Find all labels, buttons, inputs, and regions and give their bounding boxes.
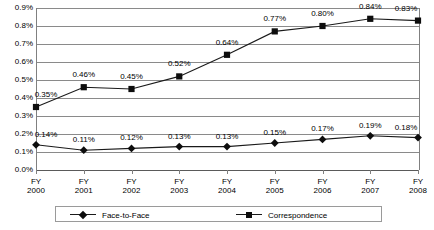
gridline <box>37 170 419 171</box>
x-axis-tick-label-line: FY <box>170 177 188 186</box>
data-label: 0.12% <box>120 134 143 142</box>
y-axis-tick-label: 0.0% <box>15 166 33 174</box>
x-axis-tick-label-line: 2007 <box>361 186 379 195</box>
x-axis-tick-label-line: FY <box>266 177 284 186</box>
x-axis-tick-label-line: FY <box>361 177 379 186</box>
x-axis-tick-label-line: 2001 <box>75 186 93 195</box>
x-axis-tick-label-line: 2002 <box>123 186 141 195</box>
legend-marker-diamond-icon <box>70 210 96 220</box>
x-axis-tick-mark <box>323 170 324 174</box>
x-axis-tick-label-line: 2005 <box>266 186 284 195</box>
gridline <box>37 80 419 81</box>
y-axis-tick-label: 0.3% <box>15 112 33 120</box>
x-axis-tick-label: FY2005 <box>266 177 284 195</box>
legend-item-face-to-face[interactable]: Face-to-Face <box>70 209 150 221</box>
x-axis-tick-label-line: 2004 <box>218 186 236 195</box>
legend-marker-glyph <box>79 211 87 219</box>
x-axis-tick-label-line: FY <box>218 177 236 186</box>
legend-label: Correspondence <box>266 211 327 220</box>
data-label: 0.52% <box>168 60 191 68</box>
x-axis-tick-mark <box>36 170 37 174</box>
x-axis-tick-label-line: 2003 <box>170 186 188 195</box>
gridline <box>37 26 419 27</box>
x-axis-tick-label: FY2001 <box>75 177 93 195</box>
x-axis-tick-label-line: FY <box>27 177 45 186</box>
x-axis-tick-label: FY2004 <box>218 177 236 195</box>
data-label: 0.35% <box>35 91 58 99</box>
data-label: 0.19% <box>359 122 382 130</box>
gridline <box>37 116 419 117</box>
x-axis-tick-label-line: FY <box>409 177 427 186</box>
x-axis-tick-label: FY2002 <box>123 177 141 195</box>
data-label: 0.14% <box>35 131 58 139</box>
legend-item-correspondence[interactable]: Correspondence <box>236 209 327 221</box>
x-axis-tick-label-line: 2008 <box>409 186 427 195</box>
x-axis-tick-label: FY2008 <box>409 177 427 195</box>
x-axis-tick-mark <box>179 170 180 174</box>
gridline <box>37 152 419 153</box>
x-axis-tick-mark <box>418 170 419 174</box>
legend-marker-glyph <box>246 212 252 218</box>
plot-area <box>36 8 420 170</box>
x-axis-tick-mark <box>227 170 228 174</box>
chart-legend: Face-to-FaceCorrespondence <box>55 206 382 222</box>
y-axis-tick-label: 0.4% <box>15 94 33 102</box>
data-label: 0.45% <box>120 73 143 81</box>
x-axis-tick-label: FY2003 <box>170 177 188 195</box>
x-axis-tick-mark <box>132 170 133 174</box>
line-chart: 0.9%0.8%0.7%0.6%0.5%0.4%0.3%0.2%0.1%0.0%… <box>0 0 434 230</box>
y-axis: 0.9%0.8%0.7%0.6%0.5%0.4%0.3%0.2%0.1%0.0% <box>0 0 33 230</box>
y-axis-tick-label: 0.8% <box>15 22 33 30</box>
x-axis-tick-label-line: FY <box>314 177 332 186</box>
y-axis-tick-label: 0.5% <box>15 76 33 84</box>
y-axis-tick-label: 0.6% <box>15 58 33 66</box>
x-axis-tick-mark <box>275 170 276 174</box>
y-axis-tick-label: 0.9% <box>15 4 33 12</box>
x-axis-tick-label: FY2000 <box>27 177 45 195</box>
data-label: 0.17% <box>311 125 334 133</box>
x-axis-tick-label-line: FY <box>123 177 141 186</box>
data-label: 0.80% <box>311 10 334 18</box>
data-label: 0.64% <box>216 39 239 47</box>
x-axis-tick-label-line: 2000 <box>27 186 45 195</box>
data-label: 0.11% <box>73 136 95 144</box>
data-label: 0.13% <box>216 133 239 141</box>
x-axis-tick-mark <box>84 170 85 174</box>
data-label: 0.77% <box>263 15 286 23</box>
data-label: 0.13% <box>168 133 191 141</box>
legend-label: Face-to-Face <box>100 211 150 220</box>
x-axis-tick-label: FY2007 <box>361 177 379 195</box>
gridline <box>37 98 419 99</box>
gridline <box>37 62 419 63</box>
x-axis-tick-label-line: FY <box>75 177 93 186</box>
data-label: 0.15% <box>263 129 286 137</box>
data-label: 0.46% <box>72 71 95 79</box>
y-axis-tick-label: 0.1% <box>15 148 33 156</box>
y-axis-tick-label: 0.7% <box>15 40 33 48</box>
x-axis-tick-label-line: 2006 <box>314 186 332 195</box>
x-axis-tick-mark <box>370 170 371 174</box>
data-label: 0.83% <box>395 5 418 13</box>
y-axis-tick-label: 0.2% <box>15 130 33 138</box>
legend-marker-square-icon <box>236 210 262 220</box>
data-label: 0.18% <box>395 124 418 132</box>
data-label: 0.84% <box>359 3 382 11</box>
x-axis-tick-label: FY2006 <box>314 177 332 195</box>
